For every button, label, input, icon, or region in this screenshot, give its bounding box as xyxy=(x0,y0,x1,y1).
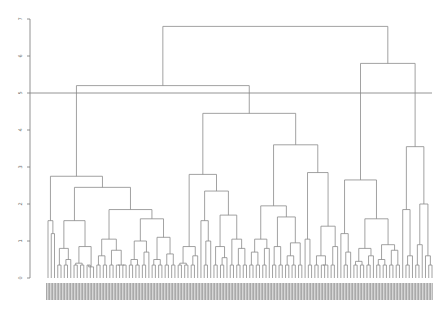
y-tick-label: 0 xyxy=(17,276,23,279)
y-axis: 01234567 xyxy=(17,17,30,279)
y-tick-label: 2 xyxy=(17,202,23,205)
y-tick-label: 6 xyxy=(17,54,23,57)
leaf-labels xyxy=(46,283,433,300)
y-tick-label: 7 xyxy=(17,17,23,20)
y-tick-label: 5 xyxy=(17,91,23,94)
y-tick-label: 4 xyxy=(17,128,23,131)
dendrogram-chart: 01234567 xyxy=(0,0,445,315)
y-tick-label: 1 xyxy=(17,239,23,242)
y-tick-label: 3 xyxy=(17,165,23,168)
dendrogram-branches xyxy=(48,26,432,278)
